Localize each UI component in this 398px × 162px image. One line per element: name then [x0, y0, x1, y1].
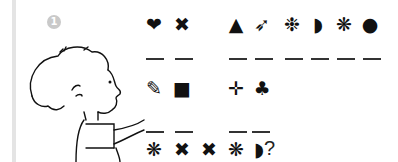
pencil-icon: ✎: [144, 79, 164, 98]
heart-icon: ❤: [144, 15, 164, 34]
square-icon: ■: [172, 79, 192, 98]
answer-blank[interactable]: [146, 131, 164, 133]
boy-pointing-illustration: [20, 38, 145, 162]
answer-blank[interactable]: [255, 58, 273, 60]
cross-icon: ✖: [172, 15, 192, 34]
question-mark: ?: [264, 137, 275, 160]
answer-blank[interactable]: [252, 131, 270, 133]
circle-icon: ●: [360, 15, 380, 34]
arrow-icon: ➶: [252, 15, 272, 34]
answer-blank[interactable]: [175, 58, 193, 60]
answer-blank[interactable]: [363, 58, 381, 60]
answer-blank[interactable]: [311, 58, 329, 60]
answer-blank[interactable]: [146, 58, 164, 60]
cross-icon: ✖: [172, 140, 192, 159]
answer-blank[interactable]: [175, 131, 193, 133]
answer-blank[interactable]: [285, 58, 303, 60]
answer-blank[interactable]: [229, 131, 247, 133]
asterisk-flower-icon: ❋: [226, 140, 246, 159]
plus-icon: ✛: [226, 79, 246, 98]
snowflake-dots-icon: ❉: [282, 15, 302, 34]
answer-blank[interactable]: [229, 58, 247, 60]
left-margin-bar: [12, 0, 16, 162]
exercise-number-badge: 1: [47, 15, 61, 29]
answer-blank[interactable]: [337, 58, 355, 60]
asterisk-flower-icon: ❋: [144, 140, 164, 159]
cross-icon: ✖: [199, 140, 219, 159]
club-icon: ♣: [252, 79, 272, 98]
triangle-icon: ▲: [226, 15, 246, 34]
asterisk-flower-icon: ❋: [334, 15, 354, 34]
half-circle-icon: ◗: [308, 15, 328, 34]
